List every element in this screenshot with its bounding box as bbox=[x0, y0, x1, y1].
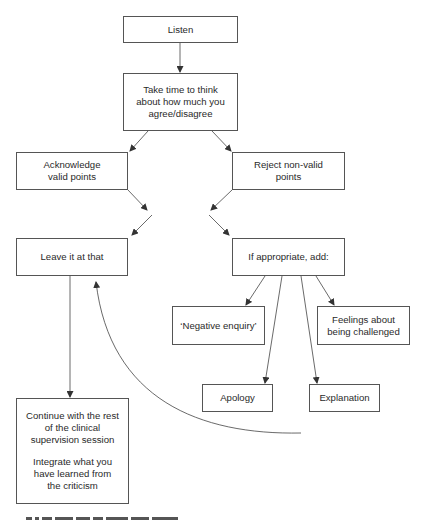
arrow-to-feelings bbox=[316, 276, 334, 305]
node-leave: Leave it at that bbox=[16, 238, 128, 276]
node-appropriate: If appropriate, add: bbox=[232, 238, 345, 276]
figure-caption-cropped bbox=[26, 517, 196, 521]
arrow-to-negative-enquiry bbox=[246, 276, 265, 305]
arrow-think-to-reject bbox=[212, 131, 231, 151]
arrow-acknowledge-down bbox=[128, 190, 147, 210]
arrow-to-apology bbox=[265, 276, 282, 383]
node-continue: Continue with the rest of the clinical s… bbox=[16, 398, 129, 504]
arrow-into-leave bbox=[132, 215, 152, 235]
node-negative-enquiry: ‘Negative enquiry’ bbox=[172, 306, 265, 345]
node-label: Leave it at that bbox=[41, 251, 104, 263]
arrow-reject-down bbox=[211, 190, 232, 210]
node-label: ‘Negative enquiry’ bbox=[180, 320, 256, 332]
node-feelings: Feelings about being challenged bbox=[317, 306, 410, 345]
node-label: If appropriate, add: bbox=[248, 251, 329, 263]
arrow-into-appropriate bbox=[209, 215, 229, 235]
node-label: Feelings about being challenged bbox=[322, 314, 405, 338]
node-label-secondary: Integrate what you have learned from the… bbox=[21, 456, 124, 492]
node-think: Take time to think about how much you ag… bbox=[123, 73, 238, 131]
node-listen: Listen bbox=[123, 16, 238, 43]
node-explanation: Explanation bbox=[309, 384, 380, 412]
node-label: Explanation bbox=[319, 392, 369, 404]
arrow-think-to-acknowledge bbox=[130, 131, 148, 151]
node-label: Reject non-valid points bbox=[237, 159, 340, 183]
node-label: Apology bbox=[220, 392, 255, 404]
node-label: Continue with the rest of the clinical s… bbox=[21, 410, 124, 446]
node-label: Acknowledge valid points bbox=[21, 159, 123, 183]
arrow-to-explanation bbox=[301, 276, 317, 383]
node-label: Listen bbox=[168, 24, 194, 36]
node-label: Take time to think about how much you ag… bbox=[128, 84, 233, 120]
node-apology: Apology bbox=[202, 384, 273, 412]
node-acknowledge: Acknowledge valid points bbox=[16, 152, 128, 190]
node-reject: Reject non-valid points bbox=[232, 152, 345, 190]
